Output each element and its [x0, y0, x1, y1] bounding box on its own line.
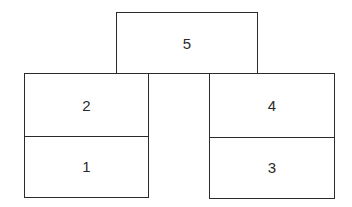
- block-3: 3: [209, 137, 335, 199]
- block-4-label: 4: [268, 97, 276, 114]
- block-1-label: 1: [82, 158, 90, 175]
- block-2: 2: [24, 73, 149, 137]
- block-3-label: 3: [268, 159, 276, 176]
- block-1: 1: [24, 136, 149, 198]
- block-4: 4: [209, 73, 335, 138]
- block-2-label: 2: [82, 97, 90, 114]
- connector-line: [24, 73, 335, 74]
- block-5: 5: [116, 12, 258, 74]
- block-5-label: 5: [183, 35, 191, 52]
